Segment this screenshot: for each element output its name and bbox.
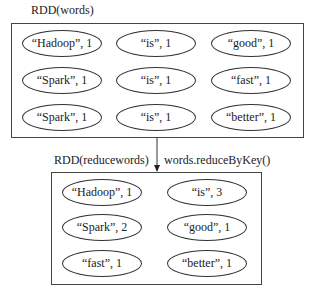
pair-ellipse: “fast”, 1 <box>62 250 142 277</box>
pair-text: “is”, 3 <box>192 185 223 200</box>
transformation-label: words.reduceByKey() <box>164 153 270 167</box>
bottom-rdd-label: RDD(reducewords) <box>54 153 149 167</box>
pair-ellipse: “better”, 1 <box>167 250 247 277</box>
pair-ellipse: “good”, 1 <box>167 214 247 241</box>
pair-ellipse: “Hadoop”, 1 <box>62 179 142 206</box>
pair-text: “Hadoop”, 1 <box>72 185 133 200</box>
pair-ellipse: “Spark”, 2 <box>62 214 142 241</box>
pair-text: “fast”, 1 <box>82 256 122 271</box>
pair-text: “better”, 1 <box>182 256 232 271</box>
pair-text: “good”, 1 <box>184 220 231 235</box>
pair-text: “Spark”, 2 <box>77 220 128 235</box>
pair-ellipse: “is”, 3 <box>167 179 247 206</box>
